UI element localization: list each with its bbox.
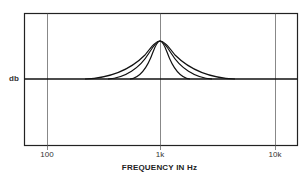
x-axis-label: FREQUENCY IN Hz	[0, 163, 305, 172]
curve-wide	[85, 41, 235, 79]
x-tick-100: 100	[40, 150, 53, 159]
x-tick-1k: 1k	[156, 150, 164, 159]
curve-medium	[108, 41, 212, 79]
y-axis-label: db	[9, 74, 19, 83]
x-tick-10k: 10k	[269, 150, 282, 159]
